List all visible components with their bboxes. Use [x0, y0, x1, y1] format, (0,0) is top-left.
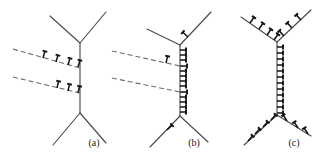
panel-a-barb-upper-3-cap [68, 58, 73, 59]
figure-canvas: (a)(b)(c) [0, 0, 322, 157]
figure-background [0, 0, 322, 157]
panel-a-barb-lower-3-cap [77, 86, 82, 87]
panel-a-barb-upper-4-cap [78, 60, 83, 61]
panel-a-barb-upper-2-cap [56, 55, 61, 56]
panel-a-barb-upper-1-cap [43, 51, 48, 52]
panel-a-barb-lower-2-cap [67, 84, 72, 85]
panel-a-label: (a) [88, 137, 99, 149]
figure-container: (a)(b)(c) [0, 0, 322, 157]
panel-b-label: (b) [188, 137, 200, 149]
panel-b-barb-dashed-upper-cap [165, 56, 170, 57]
panel-c-label: (c) [288, 137, 299, 149]
panel-a-barb-lower-1-cap [56, 81, 61, 82]
